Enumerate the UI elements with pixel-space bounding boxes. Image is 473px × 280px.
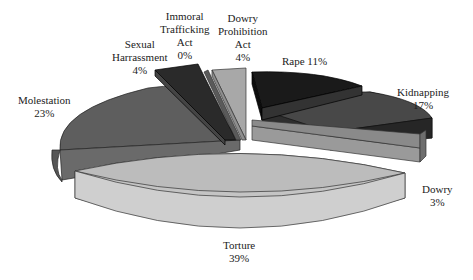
label-rape: Rape 11% (282, 55, 327, 68)
label-dowry-prohibition: Dowry Prohibition Act 4% (218, 12, 268, 64)
label-immoral-trafficking: Immoral Trafficking Act 0% (160, 10, 210, 62)
slice-torture (75, 153, 405, 228)
label-dowry: Dowry 3% (422, 183, 453, 209)
label-kidnapping: Kidnapping 17% (397, 86, 449, 112)
label-molestation: Molestation 23% (18, 94, 71, 120)
label-torture: Torture 39% (223, 239, 255, 265)
